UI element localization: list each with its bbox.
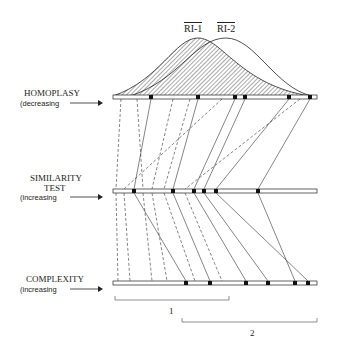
- homoplasy-bar: [113, 95, 317, 99]
- homoplasy-label: HOMOPLASY: [24, 88, 80, 98]
- ri2-label: RI-2: [217, 22, 235, 34]
- similarity-label-1: SIMILARITY: [30, 173, 82, 183]
- complexity-bar: [113, 281, 317, 285]
- similarity-label-2: TEST: [44, 183, 66, 193]
- complexity-label: COMPLEXITY: [26, 274, 84, 284]
- ri1-label: RI-1: [184, 22, 202, 34]
- complexity-sub: (increasing: [20, 285, 57, 294]
- range2-label: 2: [250, 328, 255, 338]
- homoplasy-sub: (decreasing: [20, 99, 59, 108]
- range2-bracket: [182, 318, 317, 322]
- range1-bracket: [115, 296, 229, 300]
- similarity-sub: (increasing: [20, 193, 57, 202]
- range1-label: 1: [169, 306, 174, 316]
- ri1-curve: [113, 38, 310, 96]
